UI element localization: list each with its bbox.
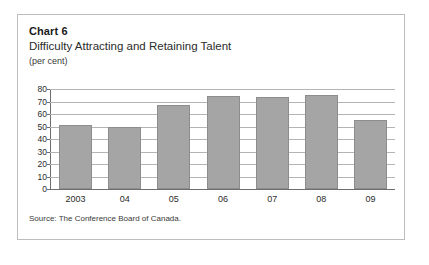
y-tick-mark-0 [47, 189, 50, 190]
bar [305, 95, 338, 189]
y-tick-mark-80 [47, 89, 50, 90]
chart-axes [50, 89, 395, 189]
chart-header: Chart 6 Difficulty Attracting and Retain… [29, 24, 389, 68]
bar-slot [256, 89, 289, 189]
x-tick-label-05: 05 [169, 193, 179, 205]
bar [157, 105, 190, 189]
x-axis-tick-labels: 2003040506070809 [51, 193, 395, 207]
bar-slot [59, 89, 92, 189]
chart-number-label: Chart 6 [29, 24, 389, 38]
chart-title: Difficulty Attracting and Retaining Tale… [29, 39, 389, 54]
bar-slot [305, 89, 338, 189]
chart-plot-area: 01020304050607080 2003040506070809 [29, 89, 395, 205]
y-tick-label-60: 60 [38, 110, 47, 119]
y-tick-mark-50 [47, 127, 50, 128]
chart-units-label: (per cent) [29, 55, 389, 68]
x-tick-label-08: 08 [316, 193, 326, 205]
x-tick-label-2003: 2003 [66, 193, 86, 205]
bar-slot [354, 89, 387, 189]
y-axis-tick-labels: 01020304050607080 [29, 89, 47, 189]
chart-figure-frame: Chart 6 Difficulty Attracting and Retain… [17, 14, 405, 240]
y-tick-label-30: 30 [38, 147, 47, 156]
bar-slot [207, 89, 240, 189]
y-tick-mark-20 [47, 164, 50, 165]
x-tick-label-07: 07 [267, 193, 277, 205]
x-tick-label-04: 04 [120, 193, 130, 205]
y-tick-label-40: 40 [38, 135, 47, 144]
bar-slot [157, 89, 190, 189]
x-tick-label-06: 06 [218, 193, 228, 205]
bar-series [51, 89, 395, 189]
y-tick-mark-70 [47, 102, 50, 103]
y-tick-mark-60 [47, 114, 50, 115]
y-tick-label-20: 20 [38, 160, 47, 169]
gridline-0 [50, 189, 395, 190]
bar [256, 97, 289, 189]
bar [108, 127, 141, 189]
chart-source-note: Source: The Conference Board of Canada. [29, 213, 181, 224]
y-tick-label-10: 10 [38, 172, 47, 181]
y-tick-mark-10 [47, 177, 50, 178]
x-tick-label-09: 09 [365, 193, 375, 205]
bar [354, 120, 387, 189]
y-tick-label-80: 80 [38, 85, 47, 94]
y-tick-label-50: 50 [38, 122, 47, 131]
y-tick-mark-40 [47, 139, 50, 140]
bar [59, 125, 92, 189]
bar [207, 96, 240, 189]
y-tick-label-70: 70 [38, 97, 47, 106]
bar-slot [108, 89, 141, 189]
y-tick-mark-30 [47, 152, 50, 153]
